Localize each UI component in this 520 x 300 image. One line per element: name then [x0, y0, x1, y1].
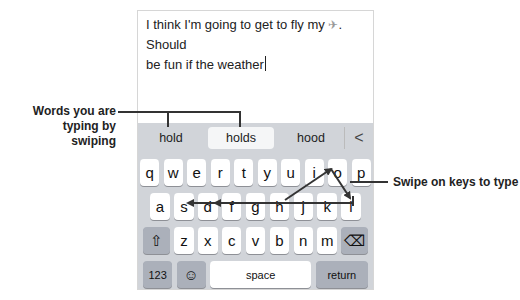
key-h[interactable]: h — [270, 193, 290, 220]
key-n[interactable]: n — [294, 227, 314, 254]
words-callout-line2: typing by swiping — [15, 119, 116, 149]
space-key[interactable]: space — [210, 261, 312, 288]
words-callout-label: Words you are typing by swiping — [15, 104, 116, 149]
text-cursor — [265, 56, 266, 71]
key-w[interactable]: w — [164, 159, 183, 186]
delete-key[interactable]: ⌫ — [341, 227, 368, 254]
key-e[interactable]: e — [187, 159, 206, 186]
prediction-holds[interactable]: holds — [208, 127, 274, 149]
message-text-area[interactable]: I think I'm going to get to fly my ✈. Sh… — [138, 11, 373, 123]
key-row-3-letters: z x c v b n m — [172, 227, 339, 254]
key-m[interactable]: m — [317, 227, 337, 254]
phone-screen: I think I'm going to get to fly my ✈. Sh… — [137, 10, 374, 290]
key-f[interactable]: f — [222, 193, 242, 220]
chevron-left-icon[interactable]: < — [344, 127, 373, 149]
swipe-callout-text: Swipe on keys to type — [393, 175, 518, 189]
shift-icon: ⇧ — [150, 232, 163, 250]
swipe-callout-label: Swipe on keys to type — [393, 175, 518, 190]
key-row-3: ⇧ z x c v b n m ⌫ — [138, 227, 373, 254]
key-l[interactable]: l — [341, 193, 361, 220]
key-t[interactable]: t — [234, 159, 253, 186]
key-z[interactable]: z — [174, 227, 194, 254]
numbers-key[interactable]: 123 — [143, 261, 172, 288]
key-row-2: a s d f g h j k l — [138, 193, 373, 220]
keyboard: hold holds hood < q w e r t y u i o p a … — [138, 123, 373, 290]
emoji-key[interactable]: ☺ — [177, 261, 206, 288]
message-line2: be fun if the weather — [146, 57, 264, 72]
key-r[interactable]: r — [211, 159, 230, 186]
shift-key[interactable]: ⇧ — [143, 227, 170, 254]
key-x[interactable]: x — [198, 227, 218, 254]
key-o[interactable]: o — [328, 159, 347, 186]
key-u[interactable]: u — [281, 159, 300, 186]
message-line1-before: I think I'm going to get to fly my — [146, 17, 328, 32]
key-a[interactable]: a — [150, 193, 170, 220]
key-i[interactable]: i — [305, 159, 324, 186]
key-b[interactable]: b — [270, 227, 290, 254]
key-p[interactable]: p — [352, 159, 371, 186]
prediction-hood[interactable]: hood — [278, 127, 344, 149]
key-g[interactable]: g — [246, 193, 266, 220]
key-d[interactable]: d — [198, 193, 218, 220]
key-k[interactable]: k — [317, 193, 337, 220]
key-c[interactable]: c — [222, 227, 242, 254]
prediction-hold[interactable]: hold — [138, 127, 204, 149]
airplane-emoji-icon: ✈ — [328, 18, 338, 32]
smiley-icon: ☺ — [183, 266, 198, 283]
key-j[interactable]: j — [294, 193, 314, 220]
key-v[interactable]: v — [246, 227, 266, 254]
key-row-1: q w e r t y u i o p — [138, 159, 373, 186]
return-key[interactable]: return — [316, 261, 368, 288]
predictive-text-bar: hold holds hood < — [138, 123, 373, 153]
key-s[interactable]: s — [174, 193, 194, 220]
words-callout-line1: Words you are — [15, 104, 116, 119]
key-row-4: 123 ☺ space return — [138, 261, 373, 288]
key-y[interactable]: y — [258, 159, 277, 186]
key-q[interactable]: q — [140, 159, 159, 186]
backspace-icon: ⌫ — [344, 232, 365, 250]
